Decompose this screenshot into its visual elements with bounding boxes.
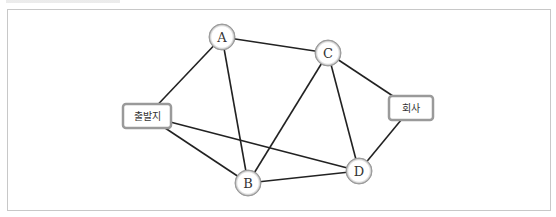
node-B: B bbox=[235, 170, 261, 196]
node-office: 회사 bbox=[389, 96, 433, 120]
node-C: C bbox=[315, 40, 341, 66]
edge-A-B bbox=[222, 37, 248, 183]
graph-diagram: 출발지AC회사BD bbox=[0, 0, 556, 217]
nodes: 출발지AC회사BD bbox=[123, 24, 433, 196]
edge-start-D bbox=[147, 116, 359, 171]
edges bbox=[147, 37, 411, 183]
node-label: 회사 bbox=[402, 103, 420, 114]
node-label: D bbox=[354, 164, 364, 179]
node-A: A bbox=[209, 24, 235, 50]
node-label: 출발지 bbox=[134, 111, 161, 122]
node-label: C bbox=[323, 46, 333, 61]
edge-A-C bbox=[222, 37, 328, 53]
node-D: D bbox=[346, 158, 372, 184]
edge-C-B bbox=[248, 53, 328, 183]
edge-B-D bbox=[248, 171, 359, 183]
node-start: 출발지 bbox=[123, 104, 171, 128]
node-label: B bbox=[243, 176, 253, 191]
node-label: A bbox=[216, 30, 227, 45]
